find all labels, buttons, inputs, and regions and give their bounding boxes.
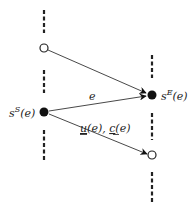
end-node-label-arg: (e) — [173, 90, 188, 103]
end-node — [148, 91, 157, 100]
left-open-node — [40, 44, 48, 52]
edge-diagram: sS(e) sE(e) e u(e), c(e) — [0, 0, 195, 207]
lower-edge-label-c-arg: (e) — [115, 122, 130, 135]
right-open-node — [148, 151, 156, 159]
lower-edge-label-u: u — [80, 122, 87, 135]
edge-e-arrow — [49, 96, 146, 111]
edge-e-label: e — [89, 90, 96, 103]
start-node-label-arg: (e) — [20, 107, 35, 120]
lower-edge-label-u-arg: (e), — [87, 122, 109, 135]
end-node-label: sE(e) — [161, 88, 188, 103]
lower-edge-label: u(e), c(e) — [80, 122, 130, 135]
upper-edge-arrow — [48, 50, 146, 93]
start-node — [40, 108, 49, 117]
start-node-label: sS(e) — [9, 105, 35, 120]
